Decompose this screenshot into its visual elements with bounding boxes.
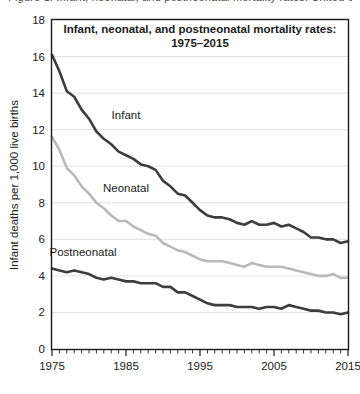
series-label-postneonatal: Postneonatal [50, 246, 117, 258]
y-tick-label: 16 [32, 51, 45, 63]
y-tick-label: 14 [32, 87, 45, 99]
x-tick-label: 2005 [261, 360, 287, 372]
y-tick-label: 0 [39, 343, 45, 355]
y-axis-title: Infant deaths per 1,000 live births [8, 100, 20, 270]
series-annotations: InfantNeonatalPostneonatal [50, 109, 150, 258]
x-tick-label: 1995 [187, 360, 213, 372]
x-axis-ticks: 19751985199520052015 [39, 349, 360, 372]
y-tick-label: 4 [39, 270, 46, 282]
figure-container: Figure 1. Infant, neonatal, and postneon… [0, 0, 360, 394]
y-tick-label: 8 [39, 197, 45, 209]
series-group [52, 55, 348, 315]
y-tick-label: 12 [32, 124, 45, 136]
x-tick-label: 1985 [113, 360, 139, 372]
y-tick-label: 18 [32, 14, 45, 26]
y-tick-label: 2 [39, 306, 45, 318]
mortality-rates-line-chart: 024681012141618 19751985199520052015 Inf… [0, 0, 360, 394]
x-tick-label: 2015 [335, 360, 360, 372]
y-axis-ticks: 024681012141618 [32, 14, 45, 355]
series-line-infant [52, 55, 348, 243]
y-tick-label: 6 [39, 233, 45, 245]
series-label-infant: Infant [112, 109, 142, 121]
series-line-postneonatal [52, 269, 348, 315]
series-label-neonatal: Neonatal [103, 182, 149, 194]
x-tick-label: 1975 [39, 360, 65, 372]
chart-title: Infant, neonatal, and postneonatal morta… [64, 23, 337, 35]
gridlines-group [52, 57, 348, 313]
chart-subtitle: 1975–2015 [171, 37, 229, 49]
y-tick-label: 10 [32, 160, 45, 172]
